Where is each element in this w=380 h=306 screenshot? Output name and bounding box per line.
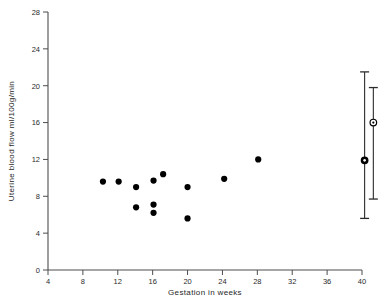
error-bar-term-group-1 (360, 72, 369, 219)
data-point (150, 210, 156, 216)
data-point (133, 184, 139, 190)
x-tick-label: 32 (288, 277, 296, 286)
error-bar-mean-marker-core (372, 121, 374, 123)
x-axis-title: Gestation in weeks (168, 288, 242, 297)
data-point (100, 178, 106, 184)
error-bar-term-group-2 (369, 88, 378, 199)
y-axis-title: Uterine blood flow ml/100g/min (7, 81, 16, 201)
data-point (133, 204, 139, 210)
x-tick-label: 36 (323, 277, 331, 286)
chart-figure: 0481216202428 481216202428323640 Gestati… (0, 0, 380, 306)
data-point (184, 184, 190, 190)
data-point (221, 176, 227, 182)
x-tick-label: 40 (358, 277, 366, 286)
x-axis-ticks: 481216202428323640 (46, 270, 366, 286)
y-tick-label: 20 (32, 82, 40, 91)
y-tick-label: 16 (32, 118, 40, 127)
data-point (150, 178, 156, 184)
error-bar-mean-marker-core (363, 159, 366, 162)
x-tick-label: 4 (46, 277, 50, 286)
y-tick-label: 4 (36, 229, 40, 238)
data-point (150, 201, 156, 207)
data-point (184, 215, 190, 221)
error-bars-layer (360, 72, 378, 219)
y-tick-label: 28 (32, 8, 40, 17)
y-tick-label: 0 (36, 266, 40, 275)
data-point (116, 178, 122, 184)
x-tick-label: 16 (148, 277, 156, 286)
data-points-layer (100, 156, 261, 221)
y-axis-ticks: 0481216202428 (32, 8, 48, 275)
x-tick-label: 20 (183, 277, 191, 286)
y-tick-label: 8 (36, 192, 40, 201)
x-tick-label: 24 (218, 277, 226, 286)
scatter-plot-svg: 0481216202428 481216202428323640 Gestati… (0, 0, 380, 306)
y-tick-label: 12 (32, 155, 40, 164)
data-point (160, 171, 166, 177)
data-point (255, 156, 261, 162)
x-tick-label: 8 (81, 277, 85, 286)
x-tick-label: 12 (114, 277, 122, 286)
x-tick-label: 28 (253, 277, 261, 286)
y-tick-label: 24 (32, 45, 40, 54)
